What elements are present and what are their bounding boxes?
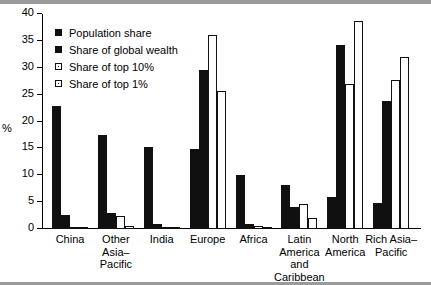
scan-artifact-top: [0, 0, 431, 4]
y-axis-tick: 40: [37, 13, 42, 14]
bar: [345, 84, 354, 229]
x-axis-category-label: Rich Asia– Pacific: [346, 233, 431, 258]
y-axis-tick: 35: [37, 40, 42, 41]
y-axis-label: %: [2, 122, 12, 134]
bar: [336, 45, 345, 229]
bar: [153, 224, 162, 229]
bar-group: [281, 14, 317, 229]
y-axis-line: [42, 14, 43, 229]
y-axis-tick: 15: [37, 147, 42, 148]
bar-group: [373, 14, 409, 229]
bar-group-bars: [190, 14, 226, 229]
legend-item: Population share: [55, 24, 178, 41]
bar: [125, 226, 134, 229]
y-axis-tick-label: 25: [22, 87, 34, 100]
legend-swatch-icon: [55, 29, 62, 36]
legend-item-label: Share of top 1%: [69, 78, 148, 90]
legend-swatch-icon: [55, 63, 62, 70]
y-axis-tick-label: 20: [22, 114, 34, 127]
bar: [162, 227, 171, 229]
bar: [254, 226, 263, 229]
bar: [98, 135, 107, 229]
bar: [107, 213, 116, 229]
bar: [373, 203, 382, 229]
y-axis-tick-label: 40: [22, 6, 34, 19]
chart-legend: Population shareShare of global wealthSh…: [55, 24, 178, 92]
y-axis-tick: 30: [37, 67, 42, 68]
bar: [79, 227, 88, 229]
legend-item-label: Population share: [69, 27, 152, 39]
bar: [400, 57, 409, 229]
legend-item: Share of top 1%: [55, 75, 178, 92]
bar: [116, 216, 125, 229]
y-axis-tick-label: 5: [28, 194, 34, 207]
y-axis-tick-label: 15: [22, 140, 34, 153]
legend-item-label: Share of global wealth: [69, 44, 178, 56]
bar: [290, 207, 299, 229]
bar: [199, 70, 208, 229]
bar-group: [327, 14, 363, 229]
bar-chart-figure: % 0510152025303540 ChinaOther Asia– Paci…: [0, 0, 431, 285]
y-axis-tick: 10: [37, 174, 42, 175]
bar-group-bars: [327, 14, 363, 229]
y-axis-tick-label: 10: [22, 167, 34, 180]
bar: [144, 147, 153, 229]
bar: [208, 35, 217, 229]
bar-group: [190, 14, 226, 229]
bar: [308, 218, 317, 229]
legend-swatch-icon: [55, 80, 62, 87]
bar-group-bars: [373, 14, 409, 229]
bar-group: [236, 14, 272, 229]
bar: [61, 215, 70, 230]
bar: [327, 197, 336, 229]
bar: [245, 224, 254, 229]
legend-swatch-icon: [55, 46, 62, 53]
legend-item-label: Share of top 10%: [69, 61, 154, 73]
bar: [52, 106, 61, 229]
y-axis-tick-label: 30: [22, 60, 34, 73]
bar-group-bars: [236, 14, 272, 229]
legend-item: Share of top 10%: [55, 58, 178, 75]
bar: [299, 204, 308, 229]
y-axis-tick: 20: [37, 121, 42, 122]
bar: [190, 149, 199, 229]
bar: [171, 227, 180, 229]
bar: [354, 21, 363, 229]
bar: [281, 185, 290, 229]
y-axis-tick-label: 35: [22, 33, 34, 46]
y-axis-tick: 0: [37, 228, 42, 229]
bar: [236, 175, 245, 229]
bar: [70, 227, 79, 229]
bar: [263, 227, 272, 229]
y-axis-tick: 5: [37, 201, 42, 202]
legend-item: Share of global wealth: [55, 41, 178, 58]
bar: [217, 91, 226, 229]
bar-group-bars: [281, 14, 317, 229]
y-axis-tick: 25: [37, 94, 42, 95]
bar: [391, 80, 400, 229]
bar: [382, 101, 391, 229]
